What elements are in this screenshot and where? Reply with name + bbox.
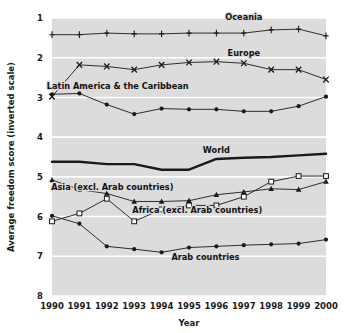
series-label: World [203, 145, 230, 155]
data-point-marker [187, 245, 191, 249]
data-point-marker [242, 243, 246, 247]
data-point-marker [160, 250, 164, 254]
series-label: Oceania [225, 12, 262, 22]
x-tick-label: 1998 [259, 301, 283, 311]
y-tick-label: 5 [37, 172, 43, 182]
y-tick-label: 8 [37, 291, 43, 301]
data-point-marker [50, 92, 54, 96]
series-label: Europe [228, 48, 261, 58]
x-tick-label: 1995 [177, 301, 201, 311]
data-point-marker [242, 109, 246, 113]
data-point-marker [269, 179, 274, 184]
x-tick-label: 1994 [150, 301, 174, 311]
data-point-marker [104, 196, 109, 201]
data-point-marker [77, 91, 81, 95]
x-axis-title: Year [177, 318, 200, 328]
data-point-marker [77, 211, 82, 216]
data-point-marker [214, 244, 218, 248]
series-label: Africa (excl. Arab countries) [132, 205, 262, 215]
y-tick-label: 1 [37, 13, 43, 23]
data-point-marker [214, 107, 218, 111]
data-point-marker [132, 247, 136, 251]
x-tick-label: 1999 [287, 301, 311, 311]
data-point-marker [187, 107, 191, 111]
data-point-marker [105, 102, 109, 106]
x-tick-label: 1990 [40, 301, 64, 311]
data-point-marker [160, 106, 164, 110]
data-point-marker [77, 222, 81, 226]
data-point-marker [296, 174, 301, 179]
y-tick-label: 4 [37, 132, 43, 142]
data-point-marker [324, 174, 329, 179]
data-point-marker [132, 219, 137, 224]
y-tick-label: 7 [37, 251, 43, 261]
y-tick-label: 3 [37, 93, 43, 103]
data-point-marker [324, 238, 328, 242]
x-tick-label: 2000 [314, 301, 338, 311]
data-point-marker [132, 112, 136, 116]
series-label: Arab countries [171, 252, 239, 262]
series-label: Asia (excl. Arab countries) [51, 182, 174, 192]
x-tick-label: 1991 [68, 301, 92, 311]
data-point-marker [50, 219, 55, 224]
freedom-score-line-chart: 1234567819901991199219931994199519961997… [0, 0, 352, 333]
x-tick-label: 1997 [232, 301, 256, 311]
data-point-marker [297, 104, 301, 108]
chart-container: 1234567819901991199219931994199519961997… [0, 0, 352, 333]
data-point-marker [50, 214, 54, 218]
x-tick-label: 1992 [95, 301, 119, 311]
series-label: Latin America & the Caribbean [47, 81, 189, 91]
data-point-marker [324, 95, 328, 99]
y-axis-title: Average freedom score (inverted scale) [6, 62, 16, 252]
x-tick-label: 1993 [122, 301, 146, 311]
data-point-marker [297, 241, 301, 245]
y-tick-label: 2 [37, 53, 43, 63]
data-point-marker [105, 244, 109, 248]
x-tick-label: 1996 [205, 301, 229, 311]
data-point-marker [241, 194, 246, 199]
data-point-marker [269, 242, 273, 246]
data-point-marker [269, 109, 273, 113]
y-tick-label: 6 [37, 212, 43, 222]
